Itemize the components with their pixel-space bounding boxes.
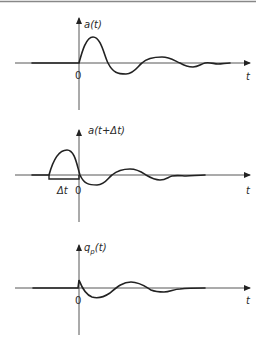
y-axis-label: a(t+Δt): [88, 125, 125, 136]
x-axis-label: t: [246, 71, 251, 82]
response-curve: [32, 37, 230, 74]
delta-t-label: Δt: [56, 185, 69, 196]
y-axis-label: qp(t): [84, 242, 107, 256]
qp-curve: [33, 280, 205, 298]
origin-label: 0: [75, 295, 81, 306]
signal-diagram: a(t) 0 t a(t+Δt) Δt 0 t qp(t) 0 t: [0, 0, 266, 357]
panel-a-shifted: a(t+Δt) Δt 0 t: [15, 125, 251, 222]
origin-label: 0: [75, 185, 81, 196]
shifted-response-curve: [32, 150, 205, 185]
x-axis-label: t: [246, 185, 251, 196]
delta-t-bracket: [49, 175, 79, 179]
panel-a: a(t) 0 t: [15, 18, 251, 110]
y-axis-label: a(t): [84, 19, 102, 30]
x-axis-label: t: [246, 295, 251, 306]
panel-qp: qp(t) 0 t: [15, 242, 251, 335]
origin-label: 0: [75, 70, 81, 81]
